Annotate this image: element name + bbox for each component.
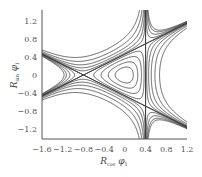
contour-line (37, 8, 192, 143)
y-tick-label: −1.2 (18, 125, 37, 134)
phase-portrait-chart: −1.6−1.2−0.8−0.400.40.81.2 1.20.80.40−0.… (0, 0, 202, 177)
contour-line (37, 8, 192, 143)
contour-line (37, 8, 192, 143)
x-tick-label: −1.6 (32, 145, 51, 154)
y-tick-label: 0 (32, 71, 37, 80)
y-tick-label: 0.8 (24, 35, 37, 44)
contour-line (37, 8, 192, 143)
contour-curves (37, 8, 192, 143)
contour-line (37, 8, 192, 143)
contour-line (37, 8, 192, 143)
x-tick-label: 1.2 (181, 145, 194, 154)
x-tick-labels: −1.6−1.2−0.8−0.400.40.81.2 (32, 145, 193, 154)
x-tick-label: 0 (122, 145, 127, 154)
y-tick-label: −0.4 (18, 89, 37, 98)
x-tick-label: −0.4 (94, 145, 113, 154)
y-tick-label: 1.2 (24, 17, 37, 26)
x-tick-label: −1.2 (53, 145, 72, 154)
contour-line (37, 8, 192, 143)
y-tick-label: −0.8 (18, 107, 37, 116)
y-tick-labels: 1.20.80.40−0.4−0.8−1.2 (18, 17, 37, 134)
y-tick-label: 0.4 (24, 53, 37, 62)
x-tick-label: 0.8 (160, 145, 173, 154)
x-tick-label: −0.8 (74, 145, 93, 154)
x-tick-label: 0.4 (139, 145, 152, 154)
contour-line (37, 8, 192, 143)
x-axis-label: Rcos φ1 (99, 156, 128, 167)
y-axis-label: Rsin φ1 (9, 62, 20, 90)
contour-line (37, 8, 192, 143)
contour-line (37, 8, 192, 143)
